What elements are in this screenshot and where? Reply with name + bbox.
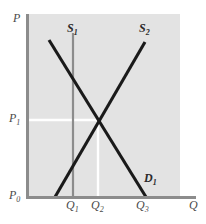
curve-s2-base: S [139,21,146,35]
y-tick-p1-subscript: 1 [16,118,20,127]
y-axis-title: P [13,12,20,24]
supply-demand-chart: P Q P1 P0 Q1 Q2 Q3 S1 S2 D1 [0,0,206,224]
x-tick-label-q2: Q2 [91,199,104,214]
x-tick-q2-base: Q [91,198,100,212]
y-tick-label-p0: P0 [9,189,20,204]
x-tick-label-q3: Q3 [136,199,149,214]
curve-s2-subscript: 2 [146,28,150,37]
curve-d1-base: D [144,171,153,185]
x-tick-q3-subscript: 3 [145,205,149,214]
curve-d1-subscript: 1 [153,178,157,187]
curve-label-d1: D1 [144,172,157,187]
chart-canvas [0,0,206,224]
x-tick-q3-base: Q [136,198,145,212]
curve-label-s2: S2 [139,22,150,37]
x-tick-q1-subscript: 1 [75,205,79,214]
y-tick-p0-subscript: 0 [16,195,20,204]
x-tick-label-q1: Q1 [66,199,79,214]
curve-s1-base: S [67,21,74,35]
x-tick-q1-base: Q [66,198,75,212]
x-axis-title: Q [189,199,198,211]
curve-label-s1: S1 [67,22,78,37]
x-tick-q2-subscript: 2 [100,205,104,214]
curve-s1-subscript: 1 [74,28,78,37]
y-tick-label-p1: P1 [9,112,20,127]
